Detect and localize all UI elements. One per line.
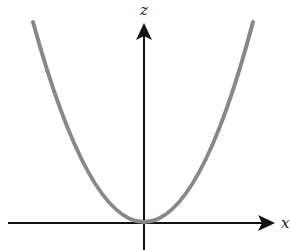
x-axis-label: x (281, 214, 290, 232)
z-axis-label: z (139, 1, 148, 19)
parabola-diagram: z x (0, 0, 290, 250)
diagram-canvas: z x (0, 0, 290, 250)
